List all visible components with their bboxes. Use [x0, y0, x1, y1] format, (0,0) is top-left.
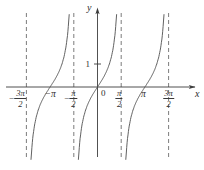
y-axis-label: y: [87, 3, 91, 13]
y-tick-label-1: 1: [86, 60, 91, 69]
x-tick-label-pi-2: π 2: [116, 89, 123, 109]
fraction-denominator: 2: [117, 99, 121, 109]
tan-graph-svg: [0, 0, 204, 170]
fraction: π 2: [70, 89, 77, 109]
x-tick-label-3pi-2: 3π 2: [163, 89, 175, 109]
fraction-denominator: 2: [71, 99, 75, 109]
fraction-numerator: 3π: [15, 89, 27, 100]
x-tick-label-neg-pi-2: − π 2: [64, 89, 77, 109]
fraction: π 2: [116, 89, 123, 109]
fraction-denominator: 2: [18, 99, 22, 109]
x-axis-label: x: [195, 89, 199, 99]
fraction-numerator: π: [116, 89, 123, 100]
minus-sign: −: [64, 93, 70, 103]
fraction: 3π 2: [15, 89, 27, 109]
minus-sign: −: [9, 93, 15, 103]
fraction-numerator: 3π: [163, 89, 175, 100]
x-tick-label-neg-pi: −π: [45, 89, 56, 99]
fraction-denominator: 2: [166, 99, 170, 109]
tangent-function-figure: y x 0 1 − 3π 2 −π − π 2 π 2 π 3π 2: [0, 0, 204, 170]
fraction-numerator: π: [70, 89, 77, 100]
x-tick-label-pi: π: [141, 89, 146, 99]
origin-label: 0: [101, 89, 106, 98]
fraction: 3π 2: [163, 89, 175, 109]
x-tick-label-neg-3pi-2: − 3π 2: [9, 89, 27, 109]
